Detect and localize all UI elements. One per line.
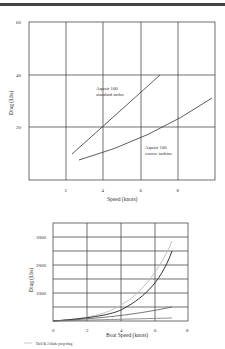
bottom-xtick-2: 2 — [86, 328, 89, 333]
top-ytick-40: 40 — [16, 73, 22, 78]
bottom-ylabel: Drag (Lbs) — [28, 268, 35, 292]
top-xlabel: Speed (knots) — [107, 196, 138, 203]
charts-canvas: 60 40 20 2 4 6 8 Speed (knots) Drag (Lbs… — [0, 0, 225, 349]
bottom-xtick-6: 6 — [154, 328, 157, 333]
top-ylabel: Drag (Lbs) — [8, 91, 15, 115]
bottom-xtick-0: 0 — [52, 328, 55, 333]
top-xtick-2: 2 — [65, 188, 68, 193]
legend-label-hull-prop: Hull & 3 blade prop drag — [36, 342, 72, 346]
hull-prop-drag-curve — [53, 241, 172, 321]
bottom-chart-grid — [53, 223, 188, 321]
top-xtick-8: 8 — [177, 188, 180, 193]
annotation-course-line1: Aquair 100 — [145, 145, 167, 150]
bottom-ytick-2000: 2000 — [36, 263, 47, 268]
top-ytick-60: 60 — [16, 20, 22, 25]
bottom-xlabel: Boat Speed (knots) — [106, 332, 148, 339]
top-xtick-4: 4 — [102, 188, 105, 193]
top-ytick-20: 20 — [16, 125, 22, 130]
bottom-ytick-3000: 3000 — [36, 235, 47, 240]
bottom-chart: 3000 2000 1000 0 2 4 6 8 Boat Speed (kno… — [24, 223, 189, 346]
turbine-drag-a-line — [53, 307, 172, 321]
annotation-standard-line1: Aquair 100 — [96, 86, 118, 91]
annotation-course-line2: course turbine — [145, 151, 172, 156]
bottom-xtick-8: 8 — [186, 328, 189, 333]
top-xtick-6: 6 — [140, 188, 143, 193]
bottom-ytick-1000: 1000 — [36, 291, 47, 296]
top-chart: 60 40 20 2 4 6 8 Speed (knots) Drag (Lbs… — [8, 20, 215, 203]
annotation-standard-line2: standard turbo — [96, 92, 124, 97]
top-chart-grid — [29, 22, 215, 180]
